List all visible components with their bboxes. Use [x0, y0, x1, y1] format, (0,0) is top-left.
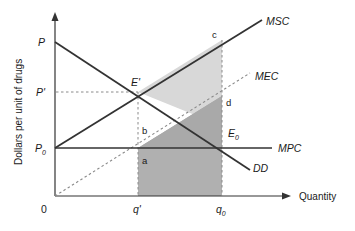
- x-axis-label: Quantity: [299, 191, 336, 202]
- price-tick-P-text: P: [38, 36, 45, 48]
- point-label-b: b: [142, 125, 147, 136]
- curve-label-msc: MSC: [266, 15, 290, 27]
- externality-diagram: Dollars per unit of drugs Quantity 0 P P…: [0, 0, 355, 231]
- point-label-b-text: b: [142, 125, 147, 136]
- price-tick-Pprime-text: P': [36, 86, 46, 98]
- y-axis: [52, 12, 59, 196]
- quantity-tick-q0: q0: [216, 203, 226, 217]
- curve-label-dd: DD: [253, 162, 269, 174]
- price-tick-P0-text: P0: [35, 142, 46, 156]
- point-label-e0-text: E0: [228, 127, 239, 141]
- quantity-tick-qprime-text: q': [133, 203, 142, 215]
- point-label-e0: E0: [228, 127, 239, 141]
- quantity-tick-q0-text: q0: [216, 203, 226, 217]
- y-axis-label: Dollars per unit of drugs: [13, 59, 24, 165]
- point-label-c-text: c: [212, 29, 217, 40]
- curve-label-mec-text: MEC: [255, 70, 279, 82]
- point-label-eprime-text: E': [131, 76, 141, 88]
- region-private-cost: [138, 148, 222, 196]
- point-label-d: d: [226, 97, 231, 108]
- curve-label-mpc-text: MPC: [278, 142, 302, 154]
- point-label-eprime: E': [131, 76, 141, 88]
- curve-label-msc-text: MSC: [266, 15, 290, 27]
- quantity-tick-qprime: q': [133, 203, 142, 215]
- point-label-c: c: [212, 29, 217, 40]
- point-label-a: a: [142, 155, 148, 166]
- curve-label-mec: MEC: [255, 70, 279, 82]
- point-label-a-text: a: [142, 155, 148, 166]
- price-tick-P: P: [38, 36, 45, 48]
- curve-label-dd-text: DD: [253, 162, 269, 174]
- price-tick-P0: P0: [35, 142, 46, 156]
- curve-label-mpc: MPC: [278, 142, 302, 154]
- origin-label: 0: [41, 203, 47, 215]
- origin-label-text: 0: [41, 203, 47, 215]
- price-tick-Pprime: P': [36, 86, 46, 98]
- point-label-d-text: d: [226, 97, 231, 108]
- x-axis-label-text: Quantity: [299, 191, 336, 202]
- y-axis-label-text: Dollars per unit of drugs: [13, 59, 24, 165]
